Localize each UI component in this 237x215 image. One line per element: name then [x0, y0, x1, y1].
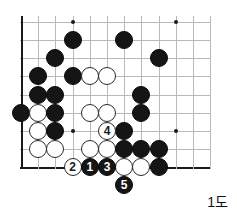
- white-stone[interactable]: [98, 104, 116, 122]
- black-stone[interactable]: [29, 67, 47, 85]
- grid-line-horizontal: [20, 22, 211, 23]
- black-stone[interactable]: [150, 158, 168, 176]
- star-point: [174, 129, 178, 133]
- black-stone[interactable]: [29, 86, 47, 104]
- grid-line-vertical: [176, 16, 177, 169]
- board-edge-left: [21, 16, 23, 169]
- go-board[interactable]: 21345: [0, 0, 237, 215]
- white-stone[interactable]: [81, 140, 99, 158]
- white-stone[interactable]: [46, 140, 64, 158]
- black-stone[interactable]: [150, 140, 168, 158]
- white-stone[interactable]: [98, 67, 116, 85]
- black-stone[interactable]: [132, 104, 150, 122]
- black-stone[interactable]: [46, 104, 64, 122]
- black-stone[interactable]: [115, 140, 133, 158]
- grid-line-vertical: [210, 16, 211, 169]
- black-stone[interactable]: [132, 140, 150, 158]
- white-stone[interactable]: [81, 104, 99, 122]
- grid-line-vertical: [193, 16, 194, 169]
- white-stone[interactable]: [132, 158, 150, 176]
- move-stone-4[interactable]: [98, 122, 116, 140]
- black-stone[interactable]: [12, 104, 30, 122]
- black-stone[interactable]: [64, 31, 82, 49]
- white-stone[interactable]: [81, 67, 99, 85]
- black-stone[interactable]: [46, 86, 64, 104]
- black-stone[interactable]: [64, 67, 82, 85]
- black-stone[interactable]: [150, 49, 168, 67]
- black-stone[interactable]: [115, 122, 133, 140]
- figure-caption: 1도: [207, 191, 229, 211]
- black-stone[interactable]: [132, 86, 150, 104]
- star-point: [71, 20, 75, 24]
- black-stone[interactable]: [115, 31, 133, 49]
- black-stone[interactable]: [46, 122, 64, 140]
- move-stone-5[interactable]: [115, 176, 133, 194]
- black-stone[interactable]: [46, 49, 64, 67]
- move-stone-1[interactable]: [81, 158, 99, 176]
- move-stone-3[interactable]: [98, 158, 116, 176]
- white-stone[interactable]: [115, 158, 133, 176]
- star-point: [71, 129, 75, 133]
- move-stone-2[interactable]: [64, 158, 82, 176]
- go-diagram-figure: 21345 1도: [0, 0, 237, 215]
- white-stone[interactable]: [29, 140, 47, 158]
- star-point: [174, 20, 178, 24]
- white-stone[interactable]: [98, 140, 116, 158]
- white-stone[interactable]: [29, 104, 47, 122]
- white-stone[interactable]: [29, 122, 47, 140]
